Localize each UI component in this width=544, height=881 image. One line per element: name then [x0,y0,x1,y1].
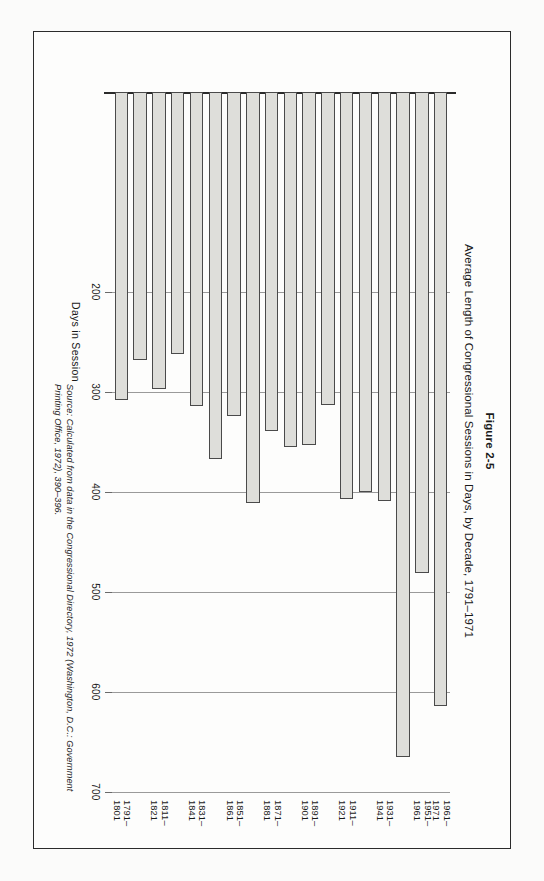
axis-tick-label: 300 [90,372,101,412]
bar [359,92,373,492]
figure-title: Average Length of Congressional Sessions… [463,32,475,850]
bar [434,92,448,706]
category-label: 1871–1881 [262,800,283,826]
bar [246,92,260,503]
bar [284,92,298,447]
axis-tick-mark [105,292,112,293]
category-label-line1: 1931– [385,800,396,826]
category-label-line2: 1921 [337,800,348,826]
bar [190,92,204,406]
bar [340,92,354,499]
bar [415,92,429,573]
category-label-line1: 1831– [197,800,208,826]
bar [115,92,129,400]
axis-tick-mark [105,492,112,493]
category-label-line2: 1841 [187,800,198,826]
page-canvas: Figure 2-5 Average Length of Congression… [0,0,544,881]
category-label: 1851–1861 [224,800,245,826]
axis-tick-label: 600 [90,672,101,712]
bar [171,92,185,354]
axis-tick-mark [105,592,112,593]
bar [396,92,410,757]
chart-plot-area: 2003004005006007001791–18011811–18211831… [112,92,450,792]
category-label-line2: 1821 [149,800,160,826]
axis-tick-mark [105,692,112,693]
category-label: 1911–1921 [337,800,358,826]
bar [265,92,279,431]
category-label-line2: 1941 [374,800,385,826]
gridline [112,792,450,793]
category-label: 1791–1801 [111,800,132,826]
figure-number: Figure 2-5 [484,32,496,850]
axis-tick-label: 200 [90,272,101,312]
category-label-line1: 1791– [122,800,133,826]
x-axis-title: Days in Session [70,302,82,382]
axis-tick-label: 400 [90,472,101,512]
figure-content: Figure 2-5 Average Length of Congression… [34,32,512,850]
figure-frame: Figure 2-5 Average Length of Congression… [33,31,511,849]
bar [227,92,241,416]
category-label: 1891–1901 [299,800,320,826]
category-label-line1: 1961– [441,800,452,826]
axis-tick-label: 700 [90,772,101,812]
source-note: Source: Calculated from data in the Cong… [52,384,76,804]
category-label-line1: 1851– [235,800,246,826]
category-label-line2: 1881 [262,800,273,826]
bar [133,92,147,360]
bar [378,92,392,501]
category-label: 1811–1821 [149,800,170,826]
category-label-line2: 1801 [111,800,122,826]
axis-tick-mark [105,392,112,393]
category-label: 1831–1841 [187,800,208,826]
category-label-line1: 1891– [310,800,321,826]
category-label-line1: 1811– [159,800,170,826]
category-label-line2: 1971 [431,800,442,826]
axis-tick-label: 500 [90,572,101,612]
category-label-line1: 1911– [347,800,358,826]
category-label: 1961–1971 [431,800,452,826]
bar [209,92,223,459]
bar [302,92,316,445]
bar [321,92,335,405]
figure-title-block: Figure 2-5 Average Length of Congression… [463,32,496,850]
category-label-line1: 1871– [272,800,283,826]
category-label-line2: 1901 [299,800,310,826]
category-label-line2: 1961 [412,800,423,826]
source-label: Source: [65,384,75,419]
category-label-line2: 1861 [224,800,235,826]
bar [152,92,166,389]
axis-tick-mark [105,792,112,793]
rotated-figure-wrapper: Figure 2-5 Average Length of Congression… [34,32,512,850]
source-text: Calculated from data in the Congressiona… [53,384,75,791]
category-label: 1931–1941 [374,800,395,826]
